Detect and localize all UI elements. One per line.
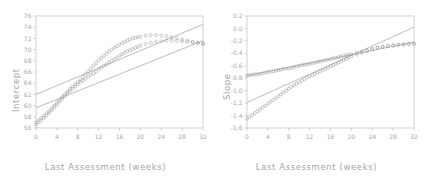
regression-line: [247, 27, 414, 102]
y-axis-tick-label: 60: [24, 102, 32, 109]
y-axis-tick-label: -1.2: [231, 99, 243, 106]
y-axis-tick-label: 0.0: [233, 25, 243, 32]
intercept-panel: Intercept Last Assessment (weeks) 565860…: [0, 0, 211, 177]
data-point-marker: [160, 34, 163, 37]
x-axis-tick-label: 8: [287, 133, 291, 140]
x-axis-tick-label: 28: [389, 133, 397, 140]
regression-line: [36, 24, 203, 94]
slope-y-axis-label: Slope: [222, 73, 232, 100]
intercept-x-axis-label: Last Assessment (weeks): [0, 162, 211, 172]
x-axis-tick-label: 16: [116, 133, 124, 140]
x-axis-tick-label: 12: [306, 133, 314, 140]
data-point-marker: [95, 62, 98, 65]
intercept-y-axis-label: Intercept: [11, 68, 21, 112]
y-axis-tick-label: 62: [24, 91, 32, 98]
x-axis-tick-label: 32: [199, 133, 207, 140]
data-point-marker: [155, 40, 158, 43]
intercept-plot-area: 5658606264666870727476048121620242832: [0, 0, 211, 177]
data-point-marker: [84, 77, 87, 80]
x-axis-tick-label: 24: [157, 133, 165, 140]
x-axis-tick-label: 20: [137, 133, 145, 140]
data-point-marker: [175, 39, 178, 42]
data-point-marker: [170, 39, 173, 42]
x-axis-tick-label: 4: [266, 133, 270, 140]
y-axis-tick-label: 58: [24, 113, 32, 120]
y-axis-tick-label: -1.6: [231, 124, 243, 131]
regression-line: [36, 41, 203, 108]
y-axis-tick-label: 64: [24, 79, 32, 86]
x-axis-tick-label: 32: [410, 133, 418, 140]
data-point-marker: [165, 35, 168, 38]
y-axis-tick-label: 66: [24, 68, 32, 75]
regression-line: [247, 42, 414, 76]
data-point-marker: [95, 70, 98, 73]
x-axis-tick-label: 0: [34, 133, 38, 140]
data-point-marker: [105, 52, 108, 55]
x-axis-tick-label: 28: [178, 133, 186, 140]
x-axis-tick-label: 20: [348, 133, 356, 140]
x-axis-tick-label: 4: [55, 133, 59, 140]
y-axis-tick-label: 56: [24, 124, 32, 131]
data-point-marker: [100, 57, 103, 60]
y-axis-tick-label: -0.4: [231, 49, 243, 56]
slope-panel: Slope Last Assessment (weeks) -1.6-1.4-1…: [211, 0, 422, 177]
y-axis-tick-label: -1.4: [231, 112, 243, 119]
y-axis-tick-label: 68: [24, 57, 32, 64]
y-axis-tick-label: 72: [24, 35, 32, 42]
data-point-marker: [376, 46, 379, 49]
slope-plot-area: -1.6-1.4-1.2-1.0-0.8-0.6-0.4-0.20.00.204…: [211, 0, 422, 177]
data-point-marker: [144, 34, 147, 37]
x-axis-tick-label: 0: [245, 133, 249, 140]
slope-x-axis-label: Last Assessment (weeks): [211, 162, 422, 172]
data-point-marker: [139, 44, 142, 47]
marker-series: [246, 42, 416, 77]
data-point-marker: [155, 34, 158, 37]
data-point-marker: [89, 67, 92, 70]
figure-container: Intercept Last Assessment (weeks) 565860…: [0, 0, 423, 177]
data-point-marker: [102, 54, 105, 57]
y-axis-tick-label: 0.2: [233, 12, 243, 19]
y-axis-tick-label: -0.6: [231, 62, 243, 69]
data-point-marker: [144, 43, 147, 46]
x-axis-tick-label: 8: [76, 133, 80, 140]
y-axis-tick-label: 70: [24, 46, 32, 53]
data-point-marker: [149, 34, 152, 37]
y-axis-tick-label: -1.0: [231, 87, 243, 94]
data-point-marker: [149, 41, 152, 44]
x-axis-tick-label: 12: [95, 133, 103, 140]
marker-series: [35, 39, 205, 126]
data-point-marker: [97, 59, 100, 62]
y-axis-tick-label: 76: [24, 12, 32, 19]
marker-series: [246, 42, 416, 120]
y-axis-tick-label: -0.8: [231, 74, 243, 81]
y-axis-tick-label: -0.2: [231, 37, 243, 44]
data-point-marker: [92, 64, 95, 67]
x-axis-tick-label: 16: [327, 133, 335, 140]
y-axis-tick-label: 74: [24, 23, 32, 30]
plot-frame: [36, 16, 203, 128]
x-axis-tick-label: 24: [368, 133, 376, 140]
marker-series: [35, 34, 205, 124]
